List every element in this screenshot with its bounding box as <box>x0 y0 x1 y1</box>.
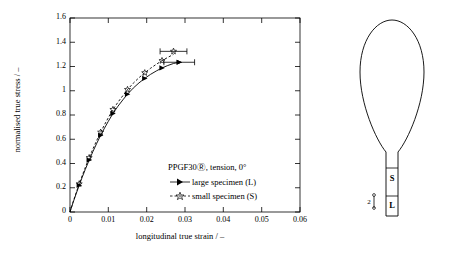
y-tick-0.8: 0.8 <box>44 109 66 118</box>
chart-panel: normalised true stress / – longitudinal … <box>0 0 330 254</box>
y-tick-1.4: 1.4 <box>44 37 66 46</box>
series-marker-1 <box>142 70 148 76</box>
error-bar-1 <box>160 48 187 54</box>
x-tick-0.03: 0.03 <box>171 215 199 224</box>
y-tick-1.6: 1.6 <box>44 12 66 21</box>
specimen-label-large: L <box>386 200 398 210</box>
x-tick-0: 0 <box>56 215 84 224</box>
series-line-0 <box>70 62 179 212</box>
series-marker-0 <box>159 65 164 70</box>
y-tick-0.6: 0.6 <box>44 134 66 143</box>
x-tick-0.02: 0.02 <box>133 215 161 224</box>
y-tick-1.2: 1.2 <box>44 61 66 70</box>
y-tick-0.4: 0.4 <box>44 158 66 167</box>
series-line-1 <box>70 54 174 212</box>
specimen-scale-marker: 2 <box>364 198 374 206</box>
x-tick-0.04: 0.04 <box>209 215 237 224</box>
y-tick-1: 1 <box>44 85 66 94</box>
figure-root: normalised true stress / – longitudinal … <box>0 0 459 254</box>
y-tick-0: 0 <box>44 206 66 215</box>
y-tick-0.2: 0.2 <box>44 182 66 191</box>
specimen-diagram-panel: S L 2 <box>330 0 459 254</box>
endpoint-marker-0 <box>177 60 182 65</box>
x-tick-0.05: 0.05 <box>248 215 276 224</box>
legend-title: PPGF30Ⓡ, tension, 0° <box>168 160 247 172</box>
legend-label-large: large specimen (L) <box>192 177 256 187</box>
legend-label-small: small specimen (S) <box>192 191 257 201</box>
x-tick-0.06: 0.06 <box>286 215 314 224</box>
x-tick-0.01: 0.01 <box>94 215 122 224</box>
specimen-label-small: S <box>386 173 398 183</box>
specimen-shape-outline <box>330 0 459 254</box>
